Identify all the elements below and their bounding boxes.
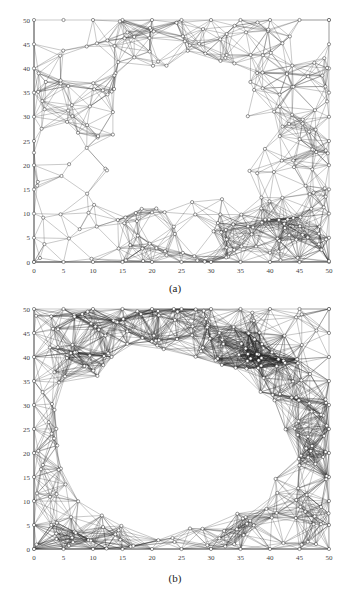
- x-tick-label: 0: [32, 554, 36, 562]
- y-tick-label: 25: [23, 426, 31, 434]
- x-tick-label: 35: [237, 267, 245, 275]
- x-tick-label: 15: [119, 554, 127, 562]
- y-tick-label: 5: [27, 522, 31, 530]
- x-tick-label: 20: [149, 554, 157, 562]
- figure: 0510152025303540455005101520253035404550…: [0, 0, 351, 599]
- x-tick-label: 10: [90, 267, 98, 275]
- y-tick-label: 40: [23, 354, 31, 362]
- x-tick-label: 5: [62, 554, 66, 562]
- x-tick-label: 40: [267, 267, 275, 275]
- y-tick-label: 20: [23, 162, 31, 170]
- y-tick-label: 20: [23, 450, 31, 458]
- y-tick-label: 50: [23, 306, 31, 314]
- y-tick-label: 40: [23, 65, 31, 73]
- y-tick-label: 15: [23, 474, 31, 482]
- x-tick-label: 45: [296, 267, 304, 275]
- y-tick-label: 45: [23, 41, 31, 49]
- y-tick-label: 5: [27, 234, 31, 242]
- y-tick-label: 10: [23, 210, 31, 218]
- y-tick-label: 35: [23, 89, 31, 97]
- x-tick-label: 0: [32, 267, 36, 275]
- y-tick-label: 25: [23, 138, 31, 146]
- panel-b-network-plot: 0510152025303540455005101520253035404550: [23, 306, 333, 563]
- y-tick-label: 30: [23, 113, 31, 121]
- panel-a-caption: (a): [169, 282, 182, 295]
- y-tick-label: 35: [23, 378, 31, 386]
- x-tick-label: 5: [62, 267, 66, 275]
- panel-b-caption: (b): [169, 572, 182, 585]
- x-tick-label: 25: [178, 267, 186, 275]
- x-tick-label: 40: [267, 554, 275, 562]
- x-tick-label: 10: [90, 554, 98, 562]
- y-tick-label: 0: [27, 259, 31, 267]
- x-tick-label: 45: [296, 554, 304, 562]
- y-tick-label: 30: [23, 402, 31, 410]
- panel-a-network-plot: 0510152025303540455005101520253035404550: [23, 17, 333, 276]
- x-tick-label: 35: [237, 554, 245, 562]
- x-tick-label: 25: [178, 554, 186, 562]
- x-tick-label: 15: [119, 267, 127, 275]
- y-tick-label: 10: [23, 498, 31, 506]
- x-tick-label: 20: [149, 267, 157, 275]
- y-tick-label: 0: [27, 546, 31, 554]
- x-tick-label: 30: [208, 554, 216, 562]
- x-tick-label: 50: [326, 554, 334, 562]
- y-tick-label: 50: [23, 17, 31, 25]
- x-tick-label: 50: [326, 267, 334, 275]
- y-tick-label: 45: [23, 330, 31, 338]
- x-tick-label: 30: [208, 267, 216, 275]
- y-tick-label: 15: [23, 186, 31, 194]
- network-edges: [34, 20, 329, 262]
